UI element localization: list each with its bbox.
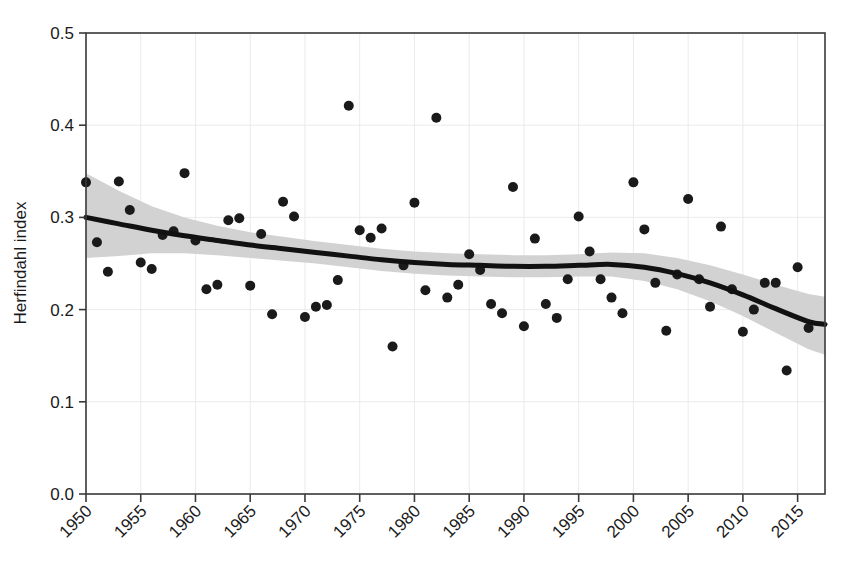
data-point bbox=[278, 197, 288, 207]
y-axis-tick-label: 0.5 bbox=[50, 24, 74, 43]
data-point bbox=[738, 327, 748, 337]
data-point bbox=[388, 341, 398, 351]
data-point bbox=[92, 237, 102, 247]
data-point bbox=[311, 302, 321, 312]
data-point bbox=[486, 299, 496, 309]
data-point bbox=[497, 308, 507, 318]
data-point bbox=[596, 274, 606, 284]
data-point bbox=[267, 309, 277, 319]
data-point bbox=[585, 247, 595, 257]
data-point bbox=[212, 280, 222, 290]
data-point bbox=[661, 326, 671, 336]
data-point bbox=[409, 198, 419, 208]
data-point bbox=[420, 285, 430, 295]
data-point bbox=[114, 176, 124, 186]
data-point bbox=[508, 182, 518, 192]
y-axis-tick-label: 0.0 bbox=[50, 485, 74, 504]
data-point bbox=[147, 264, 157, 274]
y-axis-title: Herfindahl index bbox=[11, 201, 30, 324]
data-point bbox=[541, 299, 551, 309]
data-point bbox=[464, 249, 474, 259]
data-point bbox=[519, 321, 529, 331]
data-point bbox=[716, 222, 726, 232]
data-point bbox=[530, 234, 540, 244]
data-point bbox=[793, 262, 803, 272]
data-point bbox=[234, 213, 244, 223]
data-point bbox=[749, 305, 759, 315]
data-point bbox=[180, 168, 190, 178]
data-point bbox=[683, 194, 693, 204]
data-point bbox=[453, 280, 463, 290]
data-point bbox=[552, 313, 562, 323]
data-point bbox=[650, 278, 660, 288]
data-point bbox=[344, 101, 354, 111]
data-point bbox=[333, 275, 343, 285]
data-point bbox=[705, 302, 715, 312]
data-point bbox=[617, 308, 627, 318]
data-point bbox=[574, 211, 584, 221]
data-point bbox=[377, 223, 387, 233]
data-point bbox=[125, 205, 135, 215]
y-axis-tick-label: 0.2 bbox=[50, 301, 74, 320]
data-point bbox=[628, 177, 638, 187]
data-point bbox=[289, 211, 299, 221]
data-point bbox=[256, 229, 266, 239]
y-axis-tick-label: 0.3 bbox=[50, 208, 74, 227]
herfindahl-index-scatter-chart: 0.00.10.20.30.40.5 195019551960196519701… bbox=[0, 0, 855, 583]
data-point bbox=[201, 284, 211, 294]
data-point bbox=[431, 113, 441, 123]
data-point bbox=[355, 225, 365, 235]
data-point bbox=[366, 233, 376, 243]
data-point bbox=[639, 224, 649, 234]
data-point bbox=[760, 278, 770, 288]
data-point bbox=[771, 278, 781, 288]
data-point bbox=[223, 215, 233, 225]
data-point bbox=[103, 267, 113, 277]
data-point bbox=[442, 293, 452, 303]
y-axis-tick-label: 0.1 bbox=[50, 393, 74, 412]
chart-figure: 0.00.10.20.30.40.5 195019551960196519701… bbox=[0, 0, 855, 583]
data-point bbox=[136, 258, 146, 268]
data-point bbox=[563, 274, 573, 284]
data-point bbox=[782, 365, 792, 375]
data-point bbox=[322, 300, 332, 310]
data-point bbox=[607, 293, 617, 303]
y-axis-tick-label: 0.4 bbox=[50, 116, 74, 135]
data-point bbox=[245, 281, 255, 291]
data-point bbox=[300, 312, 310, 322]
